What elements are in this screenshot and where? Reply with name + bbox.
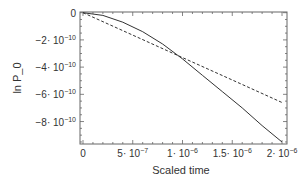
x-tick-label: 1· 10−6 [167, 147, 198, 159]
y-tick-label: −8· 10−10 [35, 116, 76, 128]
chart: 05· 10−71· 10−61.5· 10−62· 10−60−2· 10−1… [0, 0, 308, 181]
series-line-dashed [83, 13, 282, 103]
x-tick-label: 0 [80, 148, 86, 159]
y-tick-label: −2· 10−10 [35, 34, 76, 46]
series-line-solid [83, 13, 282, 142]
plot-frame [80, 12, 287, 144]
x-tick-label: 1.5· 10−6 [213, 147, 252, 159]
x-tick-label: 2· 10−6 [267, 147, 298, 159]
y-tick-label: −4· 10−10 [35, 61, 76, 73]
y-tick-label: −6· 10−10 [35, 88, 76, 100]
y-tick-label: 0 [70, 8, 76, 19]
x-tick-label: 5· 10−7 [117, 147, 148, 159]
x-axis-label: Scaled time [152, 164, 209, 176]
y-axis-label: ln P_0 [11, 62, 23, 93]
